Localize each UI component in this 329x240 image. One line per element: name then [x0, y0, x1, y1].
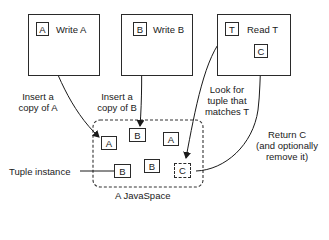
look-for-line-1: Look for [199, 84, 255, 95]
insert-b-annotation: Insert a copy of B [92, 91, 142, 113]
space-tuple-b2: B [114, 164, 131, 178]
write-b-label: Write B [153, 24, 184, 35]
write-b-tuple: B [133, 22, 147, 36]
insert-b-line-1: Insert a [92, 91, 142, 102]
space-tuple-a1: A [101, 136, 117, 150]
look-for-line-2: tuple that [199, 95, 255, 106]
insert-a-line-1: Insert a [10, 91, 66, 102]
read-t-result-tuple: C [254, 44, 268, 58]
insert-b-line-2: copy of B [92, 102, 142, 113]
read-t-tuple: T [225, 22, 239, 36]
write-a-label: Write A [56, 24, 86, 35]
insert-a-line-2: copy of A [10, 102, 66, 113]
space-tuple-b1: B [129, 128, 146, 142]
space-tuple-b3: B [144, 159, 160, 173]
space-tuple-a2: A [163, 132, 179, 146]
return-c-line-2: (and optionally [249, 140, 325, 151]
insert-a-annotation: Insert a copy of A [10, 91, 66, 113]
return-c-line-1: Return C [249, 129, 325, 140]
space-tuple-c: C [174, 163, 191, 178]
write-a-tuple: A [36, 22, 49, 36]
javaspace-label: A JavaSpace [115, 190, 170, 201]
return-c-annotation: Return C (and optionally remove it) [249, 129, 325, 162]
look-for-line-3: matches T [199, 106, 255, 117]
read-t-label: Read T [247, 24, 278, 35]
return-c-line-3: remove it) [249, 151, 325, 162]
tuple-instance-annotation: Tuple instance [9, 166, 70, 177]
look-for-annotation: Look for tuple that matches T [199, 84, 255, 117]
